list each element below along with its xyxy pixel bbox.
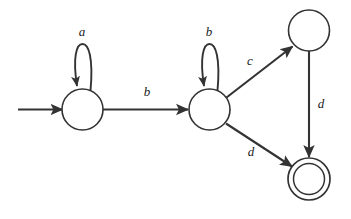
edge-label-d-vertical: d — [318, 96, 325, 111]
state-q3-inner-circle — [294, 164, 325, 195]
edge-q2-q3-d: d — [309, 51, 325, 157]
self-loop-a-path — [75, 44, 91, 91]
state-q1-circle[interactable] — [189, 89, 230, 130]
state-q2[interactable] — [289, 10, 330, 51]
edge-q1-q3-d: d — [226, 124, 292, 167]
edge-q0-q1-b: b — [103, 84, 188, 110]
state-q1[interactable] — [189, 89, 230, 130]
state-diagram-canvas: a b b c d d — [0, 0, 351, 219]
self-loop-b: b — [202, 24, 218, 91]
edge-label-a: a — [79, 24, 86, 39]
state-q3-accepting[interactable] — [288, 158, 330, 200]
state-diagram-figure: a b b c d d — [0, 0, 351, 219]
self-loop-b-path — [202, 44, 218, 91]
edge-label-d-diagonal: d — [248, 144, 255, 159]
edge-q1-q2-c: c — [227, 47, 293, 98]
edge-label-c: c — [247, 53, 253, 68]
edge-label-b-transition: b — [144, 84, 151, 99]
state-q0[interactable] — [62, 89, 103, 130]
edge-q1-q2-line — [227, 47, 293, 98]
self-loop-a: a — [75, 24, 91, 91]
state-q2-circle[interactable] — [289, 10, 330, 51]
edge-q1-q3-line — [226, 124, 292, 167]
edge-label-b-loop: b — [206, 24, 213, 39]
state-q0-circle[interactable] — [62, 89, 103, 130]
